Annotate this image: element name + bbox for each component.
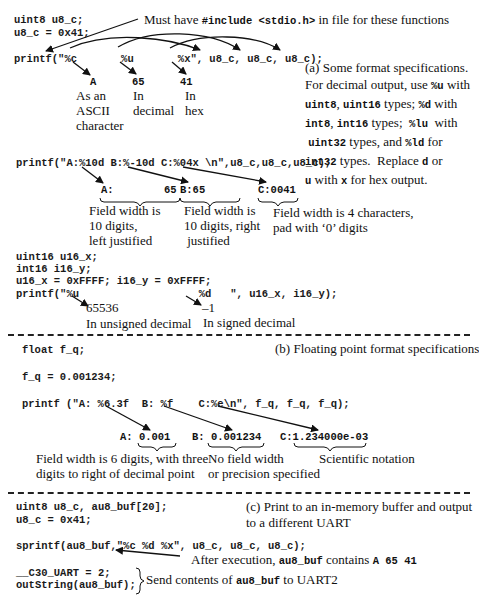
brace-uart-icon	[136, 568, 144, 594]
label-ascii: As anASCIIcharacter	[76, 88, 124, 133]
caption-a-line: (a) Some format specifications.	[305, 59, 470, 76]
note-a-field: Field width is10 digits,left justified	[89, 203, 161, 248]
output-float-c: C:1.234000e-03	[280, 431, 368, 444]
note-b-field: Field width is10 digits, right justified	[184, 203, 260, 248]
include-note: Must have #include <stdio.h> in file for…	[144, 12, 449, 29]
code-line-buf-decl: uint8 u8_c, au8_buf[20];	[16, 501, 167, 514]
caption-code: uint32	[308, 137, 346, 149]
label-line: hex	[185, 103, 204, 118]
code-line-float-assign: f_q = 0.001234;	[22, 371, 117, 384]
code-line-printf-basic: printf("%c %u %x", u8_c, u8_c, u8_c);	[14, 53, 323, 66]
include-note-code: #include <stdio.h>	[202, 15, 315, 27]
caption-code: uint8	[305, 99, 337, 111]
caption-line: (c) Print to an in-memory buffer and out…	[246, 499, 472, 515]
note-line: 10 digits, right	[184, 218, 260, 233]
note-c-field: Field width is 4 characters,pad with ‘0’…	[273, 205, 413, 235]
label-hex: Inhex	[185, 88, 204, 118]
arrow-arc-x-icon	[170, 37, 280, 50]
caption-text: or	[428, 153, 442, 168]
caption-text: with	[431, 96, 457, 111]
send-note-buf: au8_buf	[236, 575, 280, 587]
caption-text: types. Replace	[337, 153, 423, 168]
section-divider-1	[8, 334, 470, 336]
output-float-c-label: C:	[280, 431, 293, 443]
note-signed: In signed decimal	[203, 315, 295, 330]
note-float-a: Field width is 6 digits, with threedigit…	[36, 451, 208, 481]
output-float-a-value: 0.001	[139, 431, 171, 443]
caption-text: (a) Some format specifications.	[305, 60, 468, 75]
output-float-b-label: B:	[192, 431, 211, 443]
arrow-arc-u-icon	[118, 34, 240, 50]
note-float-c: Scientific notation	[319, 451, 415, 466]
caption-text: types, and	[346, 134, 405, 149]
caption-a-line: u with x for hex output.	[305, 171, 470, 190]
note-line: justified	[184, 233, 260, 248]
note-unsigned: In unsigned decimal	[86, 316, 191, 331]
after-note-pre: After execution,	[191, 552, 279, 567]
output-float-a: A: 0.001	[120, 431, 170, 444]
label-line: ASCII	[76, 103, 124, 118]
note-line: 10 digits,	[89, 218, 161, 233]
label-line: In	[133, 88, 174, 103]
send-note-post: to UART2	[280, 572, 338, 587]
caption-code: uint16	[343, 99, 381, 111]
output-unsigned: 65536	[86, 300, 119, 315]
send-note-pre: Send contents of	[146, 572, 236, 587]
caption-text: for	[424, 134, 442, 149]
caption-a-line: int8, int16 types; %lu with	[305, 114, 470, 133]
caption-code: int8	[305, 118, 330, 130]
note-line: No field width	[208, 451, 320, 466]
label-line: decimal	[133, 103, 174, 118]
output-float-c-value: 1.234000e-03	[293, 431, 369, 443]
include-note-pre: Must have	[144, 12, 202, 27]
caption-code: %u	[431, 80, 444, 92]
caption-text: For decimal output, use	[305, 77, 431, 92]
caption-text: types;	[381, 96, 419, 111]
note-float-b: No field widthor precision specified	[208, 451, 320, 481]
code-line-printf-signed: printf("%u %d ", u16_x, i16_y);	[16, 288, 337, 301]
caption-code: %ld	[405, 137, 424, 149]
note-line: pad with ‘0’ digits	[273, 220, 413, 235]
note-line: Field width is	[89, 203, 161, 218]
caption-text: types;	[368, 115, 409, 130]
caption-b: (b) Floating point format specifications	[275, 341, 479, 356]
caption-text: with	[428, 115, 458, 130]
output-b-field: B:65	[180, 184, 205, 197]
code-line-u16-assign: u16_x = 0xFFFF; i16_y = 0xFFFF;	[16, 275, 211, 288]
note-line: Field width is 4 characters,	[273, 205, 413, 220]
caption-code: int16	[337, 118, 369, 130]
code-line-assign: u8_c = 0x41;	[14, 27, 90, 40]
note-line: or precision specified	[208, 466, 320, 481]
caption-code: %d	[418, 99, 431, 111]
output-float-a-label: A:	[120, 431, 139, 443]
code-line-uint8-decl: uint8 u8_c;	[14, 14, 83, 27]
caption-line: to a different UART	[246, 515, 472, 531]
code-line-float-decl: float f_q;	[22, 344, 85, 357]
output-signed: –1	[202, 300, 215, 315]
after-note-mid: contains	[323, 552, 373, 567]
after-note-buf: au8_buf	[279, 555, 323, 567]
caption-c: (c) Print to an in-memory buffer and out…	[246, 499, 472, 531]
code-line-printf-width: printf("A:%10d B:%-10d C:%04x \n",u8_c,u…	[16, 157, 331, 170]
caption-a-line: For decimal output, use %u with	[305, 76, 470, 95]
caption-text: with	[444, 77, 470, 92]
caption-a-line: uint8, uint16 types; %d with	[305, 95, 470, 114]
note-line: Field width is	[184, 203, 260, 218]
brace-float-a-icon	[138, 443, 176, 451]
note-line: digits to right of decimal point	[36, 466, 208, 481]
label-decimal: Indecimal	[133, 88, 174, 118]
code-line-outstring: outString(au8_buf);	[16, 579, 136, 592]
output-a-field: A: 65	[101, 184, 177, 197]
caption-a-line: uint32 types, and %ld for	[305, 133, 470, 152]
brace-float-b-icon	[208, 443, 264, 451]
label-line: character	[76, 118, 124, 133]
output-c-field: C:0041	[258, 184, 296, 197]
code-line-buf-assign: u8_c = 0x41;	[16, 514, 92, 527]
after-note-value: A 65 41	[373, 555, 417, 567]
caption-text: for hex output.	[347, 172, 427, 187]
section-divider-2	[8, 492, 470, 494]
output-float-b: B: 0.001234	[192, 431, 261, 444]
caption-a: (a) Some format specifications.For decim…	[305, 59, 470, 190]
output-float-b-value: 0.001234	[211, 431, 261, 443]
note-line: left justified	[89, 233, 161, 248]
